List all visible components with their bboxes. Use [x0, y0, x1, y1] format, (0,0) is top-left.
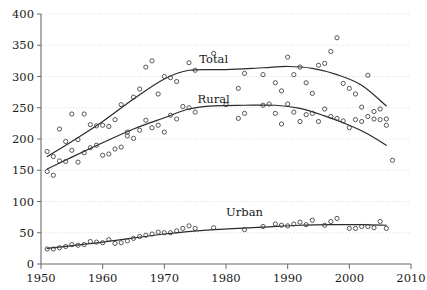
- data-point-urban: [273, 222, 277, 226]
- data-point-rural: [70, 148, 74, 152]
- series-label-urban: Urban: [226, 205, 263, 219]
- data-point-rural: [119, 145, 123, 149]
- x-tick-label: 2010: [396, 271, 425, 285]
- scatter-chart: 050100150200250300350400 195019601970198…: [0, 0, 427, 290]
- data-point-total: [162, 74, 166, 78]
- data-point-total: [316, 63, 320, 67]
- data-point-urban: [372, 226, 376, 230]
- x-axis: [41, 264, 411, 269]
- y-tick-label: 0: [27, 257, 34, 271]
- data-point-total: [335, 36, 339, 40]
- y-tick-label: 350: [12, 38, 34, 52]
- data-point-rural: [298, 119, 302, 123]
- data-point-rural: [286, 102, 290, 106]
- data-point-total: [138, 87, 142, 91]
- data-point-rural: [360, 119, 364, 123]
- x-tick-label: 2000: [335, 271, 364, 285]
- data-point-urban: [310, 218, 314, 222]
- data-point-urban: [329, 219, 333, 223]
- y-axis: [37, 14, 41, 264]
- series-data-points: [45, 36, 395, 251]
- y-tick-label: 400: [12, 7, 34, 21]
- data-point-total: [273, 81, 277, 85]
- x-tick-label: 1990: [273, 271, 302, 285]
- data-point-urban: [384, 226, 388, 230]
- data-point-total: [88, 123, 92, 127]
- data-point-rural: [193, 110, 197, 114]
- data-point-rural: [107, 152, 111, 156]
- data-point-total: [187, 61, 191, 65]
- data-point-total: [51, 154, 55, 158]
- trend-line-urban: [47, 225, 386, 249]
- data-point-total: [286, 55, 290, 59]
- data-point-rural: [372, 117, 376, 121]
- data-point-rural: [292, 110, 296, 114]
- data-point-rural: [273, 111, 277, 115]
- data-point-rural: [76, 160, 80, 164]
- data-point-total: [101, 123, 105, 127]
- data-point-rural: [390, 158, 394, 162]
- data-point-total: [310, 91, 314, 95]
- data-point-total: [360, 105, 364, 109]
- y-tick-label: 150: [12, 163, 34, 177]
- data-point-urban: [353, 226, 357, 230]
- data-point-total: [57, 127, 61, 131]
- data-point-rural: [366, 114, 370, 118]
- x-tick-label: 1980: [211, 271, 240, 285]
- data-point-total: [353, 92, 357, 96]
- data-point-total: [384, 117, 388, 121]
- data-point-rural: [156, 123, 160, 127]
- data-point-rural: [279, 122, 283, 126]
- trend-line-total: [47, 66, 386, 156]
- data-point-rural: [347, 126, 351, 130]
- data-point-urban: [119, 241, 123, 245]
- y-tick-label: 250: [12, 101, 34, 115]
- data-point-rural: [316, 119, 320, 123]
- data-point-rural: [144, 118, 148, 122]
- data-point-urban: [181, 226, 185, 230]
- data-point-total: [292, 73, 296, 77]
- data-point-total: [113, 118, 117, 122]
- y-tick-label: 50: [19, 226, 34, 240]
- data-point-urban: [113, 241, 117, 245]
- data-point-urban: [347, 226, 351, 230]
- data-point-rural: [162, 130, 166, 134]
- x-tick-label: 1960: [88, 271, 117, 285]
- data-point-rural: [181, 104, 185, 108]
- data-point-rural: [242, 111, 246, 115]
- data-point-total: [242, 71, 246, 75]
- data-point-total: [70, 112, 74, 116]
- data-point-total: [236, 86, 240, 90]
- data-point-rural: [378, 118, 382, 122]
- y-tick-labels: 050100150200250300350400: [12, 7, 34, 271]
- data-point-total: [175, 79, 179, 83]
- data-point-total: [261, 73, 265, 77]
- gridlines: [42, 14, 411, 233]
- data-point-total: [107, 124, 111, 128]
- data-point-urban: [187, 224, 191, 228]
- data-point-total: [144, 65, 148, 69]
- data-point-urban: [378, 219, 382, 223]
- data-point-rural: [384, 123, 388, 127]
- data-point-urban: [193, 226, 197, 230]
- trend-line-rural: [47, 105, 386, 169]
- data-point-rural: [45, 169, 49, 173]
- data-point-rural: [131, 136, 135, 140]
- data-point-total: [341, 81, 345, 85]
- data-point-urban: [335, 216, 339, 220]
- data-point-total: [119, 103, 123, 107]
- data-point-total: [329, 49, 333, 53]
- data-point-total: [45, 149, 49, 153]
- data-point-rural: [138, 128, 142, 132]
- y-tick-label: 300: [12, 70, 34, 84]
- data-point-rural: [51, 173, 55, 177]
- data-point-total: [156, 92, 160, 96]
- y-tick-label: 100: [12, 195, 34, 209]
- data-point-total: [82, 112, 86, 116]
- data-point-total: [347, 86, 351, 90]
- data-point-rural: [113, 147, 117, 151]
- data-point-urban: [298, 220, 302, 224]
- data-point-rural: [236, 116, 240, 120]
- data-point-total: [150, 59, 154, 63]
- data-point-rural: [175, 117, 179, 121]
